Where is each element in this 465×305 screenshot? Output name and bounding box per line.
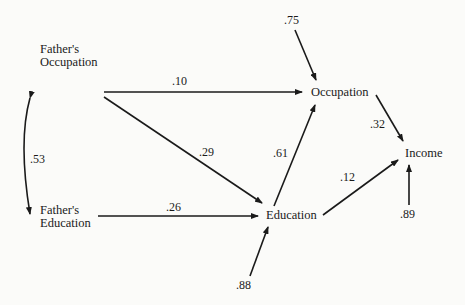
coef-fo-occupation: .10 [172,75,187,87]
coef-fo-education: .29 [199,146,214,158]
arrow-residual-education [250,227,268,276]
arrow-education-income [323,160,398,215]
arrow-fo-education [104,97,262,203]
coef-fe-education: .26 [166,201,181,213]
node-education: Education [266,209,317,222]
coef-residual-education: .88 [236,279,251,291]
node-fathers-education: Father's Education [40,204,91,230]
node-income: Income [405,147,442,160]
coef-education-occupation: .61 [273,147,288,159]
node-occupation: Occupation [311,86,369,99]
coef-education-income: .12 [340,171,355,183]
coef-correlation: .53 [30,153,45,165]
coef-residual-occupation: .75 [284,14,299,26]
node-fathers-occupation: Father's Occupation [40,43,98,69]
node-fathers-education-line2: Education [40,217,91,230]
coef-residual-income: .89 [400,208,415,220]
arrow-residual-occupation [295,30,316,80]
coef-occupation-income: .32 [370,118,385,130]
node-fathers-occupation-line2: Occupation [40,56,98,69]
